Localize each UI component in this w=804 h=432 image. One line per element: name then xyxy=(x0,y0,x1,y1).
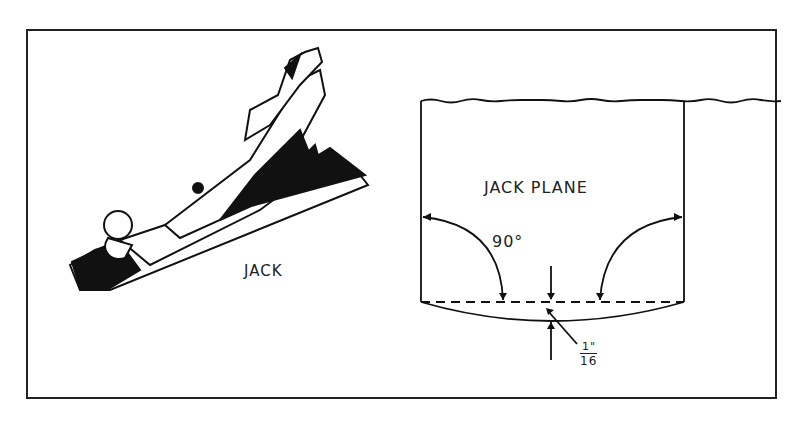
depth-denominator: 16 xyxy=(580,353,597,368)
angle-label: 90° xyxy=(492,232,523,251)
diagram-title: JACK PLANE xyxy=(484,178,588,197)
jack-plane-illustration xyxy=(0,0,804,432)
depth-numerator: 1" xyxy=(582,340,596,353)
plane-label: JACK xyxy=(244,262,282,280)
jack-plane-diagram xyxy=(421,99,781,360)
